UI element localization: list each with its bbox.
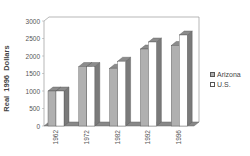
svg-text:1000: 1000: [26, 88, 41, 95]
svg-text:0: 0: [36, 123, 40, 130]
svg-text:1996: 1996: [175, 130, 182, 145]
svg-text:1992: 1992: [144, 130, 151, 145]
legend-swatch-us: [210, 82, 215, 87]
svg-text:1972: 1972: [83, 130, 90, 145]
svg-text:2500: 2500: [26, 35, 41, 42]
legend: Arizona U.S.: [210, 69, 241, 89]
svg-text:1500: 1500: [26, 70, 41, 77]
svg-text:1982: 1982: [114, 130, 121, 145]
legend-item-arizona: Arizona: [210, 69, 241, 79]
legend-item-us: U.S.: [210, 79, 241, 89]
svg-text:2000: 2000: [26, 53, 41, 60]
legend-label-arizona: Arizona: [217, 71, 241, 78]
legend-label-us: U.S.: [217, 81, 231, 88]
legend-swatch-arizona: [210, 72, 215, 77]
svg-text:500: 500: [29, 105, 40, 112]
y-axis-label: Real 1996 Dollars: [2, 34, 11, 124]
svg-text:3000: 3000: [26, 18, 41, 25]
svg-text:1962: 1962: [52, 130, 59, 145]
